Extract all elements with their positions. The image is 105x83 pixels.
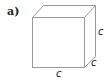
cube-figure: a) c c c xyxy=(0,0,105,83)
part-label: a) xyxy=(7,6,19,17)
edge-label-bottom: c xyxy=(56,69,62,79)
edge-label-depth: c xyxy=(91,58,97,68)
cube-front-face xyxy=(33,18,85,68)
edge-label-right: c xyxy=(98,27,104,37)
cube-top-face xyxy=(33,6,96,18)
